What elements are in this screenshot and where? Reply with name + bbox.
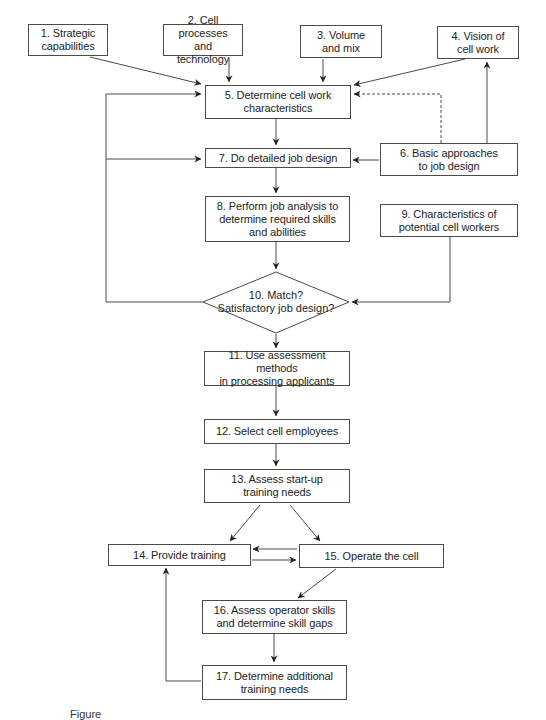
node-3-volume-mix: 3. Volume and mix (300, 25, 382, 58)
edge-4-to-5 (354, 59, 465, 85)
node-8-job-analysis: 8. Perform job analysis to determine req… (205, 196, 350, 242)
node-6-label: 6. Basic approaches to job design (400, 147, 498, 173)
edge-13-to-14 (230, 505, 260, 541)
node-2-label: 2. Cell processes and technology (167, 14, 239, 66)
edge-9-to-10 (352, 237, 450, 302)
node-2-cell-processes: 2. Cell processes and technology (163, 24, 243, 56)
node-13-startup-training: 13. Assess start-up training needs (204, 469, 350, 503)
edge-17-to-14 (166, 568, 201, 681)
node-14-label: 14. Provide training (133, 549, 226, 562)
node-5-label: 5. Determine cell work characteristics (225, 89, 332, 115)
node-13-label: 13. Assess start-up training needs (231, 473, 323, 499)
node-6-basic-approaches: 6. Basic approaches to job design (380, 143, 518, 176)
node-16-assess-operator-skills: 16. Assess operator skills and determine… (202, 600, 347, 634)
node-9-potential-workers: 9. Characteristics of potential cell wor… (380, 204, 518, 237)
node-7-label: 7. Do detailed job design (219, 152, 338, 165)
node-11-assessment-methods: 11. Use assessment methods in processing… (204, 351, 350, 386)
edge-13-to-15 (290, 505, 320, 541)
node-15-label: 15. Operate the cell (324, 550, 418, 563)
node-10-label: 10. Match? Satisfactory job design? (203, 289, 349, 315)
node-5-determine-cell-work: 5. Determine cell work characteristics (205, 85, 351, 119)
edge-6-to-5-dashed (354, 94, 441, 143)
node-8-label: 8. Perform job analysis to determine req… (217, 200, 339, 239)
node-1-label: 1. Strategic capabilities (41, 27, 95, 53)
edge-15-to-16 (298, 569, 336, 598)
figure-caption: Figure (70, 708, 101, 720)
node-7-detailed-job-design: 7. Do detailed job design (205, 148, 351, 168)
node-3-label: 3. Volume and mix (317, 29, 365, 55)
node-12-select-employees: 12. Select cell employees (204, 419, 350, 444)
node-14-provide-training: 14. Provide training (108, 544, 251, 566)
node-4-vision-of-cell-work: 4. Vision of cell work (437, 26, 519, 59)
edge-10-loop-to-5 (106, 94, 203, 302)
node-17-label: 17. Determine additional training needs (216, 670, 333, 696)
node-1-strategic-capabilities: 1. Strategic capabilities (28, 24, 108, 56)
node-9-label: 9. Characteristics of potential cell wor… (399, 208, 500, 234)
node-4-label: 4. Vision of cell work (451, 30, 504, 56)
node-17-additional-training: 17. Determine additional training needs (202, 665, 347, 700)
node-16-label: 16. Assess operator skills and determine… (214, 604, 336, 630)
node-12-label: 12. Select cell employees (216, 425, 338, 438)
node-15-operate-cell: 15. Operate the cell (299, 544, 444, 568)
node-11-label: 11. Use assessment methods in processing… (208, 349, 346, 388)
